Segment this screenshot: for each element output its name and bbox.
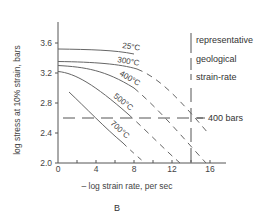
curve-400c-dashed xyxy=(134,88,206,163)
y-tick-3.2: 3.2 xyxy=(40,68,52,78)
annotation-representative: representative xyxy=(196,35,253,45)
curve-500c-dashed xyxy=(128,114,180,163)
x-tick-8: 8 xyxy=(132,164,137,174)
curve-label-700c: 700°C xyxy=(109,119,132,141)
400-bars-label: 400 bars xyxy=(208,113,244,123)
x-tick-labels: 0 4 8 12 16 xyxy=(56,164,215,174)
annotation-strain-rate: strain-rate xyxy=(196,72,237,82)
x-axis-title: – log strain rate, per sec xyxy=(81,181,173,191)
y-tick-2.0: 2.0 xyxy=(40,158,52,168)
panel-label: B xyxy=(114,203,120,213)
x-tick-12: 12 xyxy=(167,164,177,174)
annotation-geological: geological xyxy=(196,54,237,64)
y-tick-labels: 2.0 2.4 2.8 3.2 3.6 xyxy=(40,38,52,168)
curve-label-25c: 25°C xyxy=(122,41,141,52)
curve-label-500c: 500°C xyxy=(112,91,135,112)
x-tick-16: 16 xyxy=(205,164,215,174)
x-tick-0: 0 xyxy=(56,164,61,174)
y-tick-2.8: 2.8 xyxy=(40,98,52,108)
y-tick-3.6: 3.6 xyxy=(40,38,52,48)
x-tick-4: 4 xyxy=(94,164,99,174)
y-axis-title: log stress at 10% strain, bars xyxy=(12,45,22,155)
stress-strain-rate-chart: 2.0 2.4 2.8 3.2 3.6 0 4 8 12 16 log stre… xyxy=(0,0,274,215)
y-tick-2.4: 2.4 xyxy=(40,128,52,138)
